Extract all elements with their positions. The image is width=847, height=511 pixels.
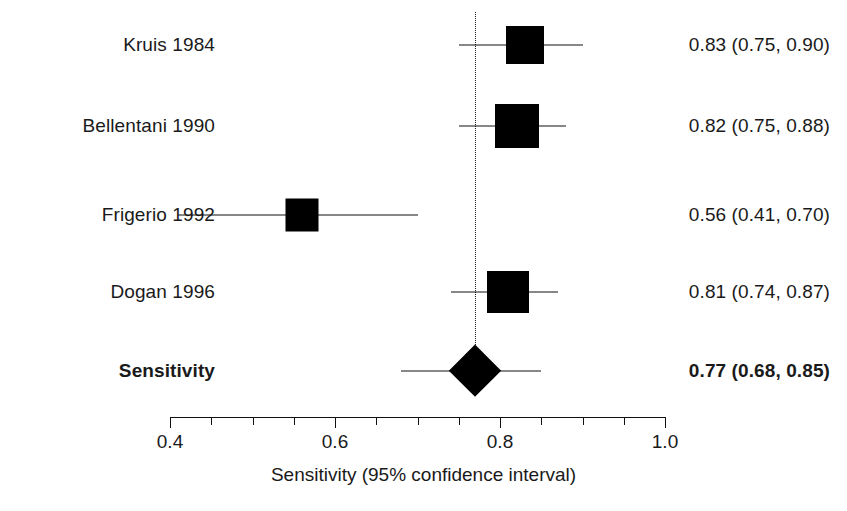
axis-tick-label: 0.4 [157,431,183,453]
effect-estimate-text: 0.81 (0.74, 0.87) [689,281,830,303]
axis-tick-minor [211,417,212,425]
study-label: Dogan 1996 [110,281,215,303]
effect-estimate-text: 0.82 (0.75, 0.88) [689,115,830,137]
axis-tick-minor [583,417,584,425]
axis-tick-label: 0.6 [322,431,348,453]
study-effect-box [286,199,319,232]
axis-tick-minor [376,417,377,425]
axis-tick-minor [294,417,295,425]
axis-tick-major [170,417,171,428]
forest-plot: Kruis 19840.83 (0.75, 0.90)Bellentani 19… [0,0,847,511]
axis-tick-label: 0.8 [487,431,513,453]
study-label: Bellentani 1990 [83,115,216,137]
axis-tick-major [335,417,336,428]
effect-estimate-text: 0.83 (0.75, 0.90) [689,34,830,56]
axis-tick-minor [624,417,625,425]
axis-tick-label: 1.0 [652,431,678,453]
study-effect-box [487,271,529,313]
study-effect-box [495,104,539,148]
study-label: Sensitivity [119,360,215,382]
summary-diamond [449,345,502,398]
axis-tick-minor [459,417,460,425]
effect-estimate-text: 0.56 (0.41, 0.70) [689,204,830,226]
x-axis-title: Sensitivity (95% confidence interval) [0,464,847,486]
axis-tick-minor [253,417,254,425]
axis-tick-major [500,417,501,428]
axis-tick-minor [541,417,542,425]
study-effect-box [506,26,544,64]
axis-tick-minor [418,417,419,425]
reference-line [475,12,476,393]
axis-tick-major [665,417,666,428]
effect-estimate-text: 0.77 (0.68, 0.85) [689,360,830,382]
study-label: Kruis 1984 [123,34,215,56]
